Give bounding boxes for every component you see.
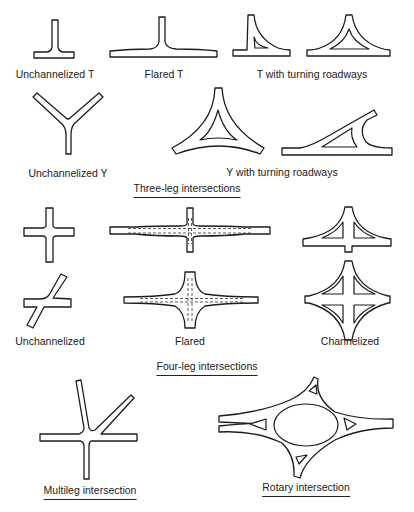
t-turning-roadway-one-side-drawing (233, 15, 290, 56)
unchannelized-skewed-cross-drawing (24, 274, 71, 328)
rotary-intersection-drawing (219, 377, 393, 478)
label-unchannelized-t: Unchannelized T (16, 68, 95, 80)
channelized-cross-drawing (305, 261, 390, 340)
y-turning-roadways-skewed-drawing (282, 110, 392, 155)
unchannelized-t-drawing (34, 20, 74, 58)
flared-t-drawing (110, 17, 217, 57)
label-rotary-intersection: Rotary intersection (262, 481, 350, 497)
label-four-leg-unchannelized: Unchannelized (15, 335, 84, 347)
t-turning-roadway-both-sides-drawing (307, 15, 390, 56)
label-y-with-turning-roadways: Y with turning roadways (226, 166, 337, 178)
y-turning-roadways-symmetric-drawing (172, 88, 264, 154)
label-unchannelized-y: Unchannelized Y (28, 167, 107, 179)
section-title-three-leg: Three-leg intersections (134, 182, 241, 198)
label-four-leg-channelized: Channelized (321, 335, 379, 347)
flared-cross-drawing (110, 208, 270, 252)
multileg-intersection-drawing (40, 380, 137, 479)
label-flared-t: Flared T (145, 68, 184, 80)
label-t-with-turning-roadways: T with turning roadways (257, 68, 368, 80)
section-title-four-leg: Four-leg intersections (157, 360, 258, 376)
label-multileg-intersection: Multileg intersection (44, 484, 137, 500)
flared-cross-curved-drawing (124, 272, 258, 328)
unchannelized-cross-drawing (24, 208, 74, 262)
unchannelized-y-drawing (33, 93, 103, 154)
channelized-t-with-stem-drawing (303, 207, 391, 252)
label-four-leg-flared: Flared (175, 335, 205, 347)
